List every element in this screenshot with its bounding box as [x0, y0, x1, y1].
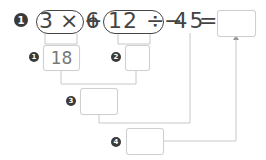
step-2-box[interactable]: [125, 45, 150, 71]
step-1-box[interactable]: 18: [43, 45, 80, 71]
expression-minus-five: − 5: [164, 8, 203, 34]
step-3-badge: 3: [66, 96, 76, 106]
problem-number-badge: 1: [14, 13, 28, 27]
step-1-badge: 1: [29, 52, 39, 62]
expression-plus: +: [84, 8, 102, 34]
step-3-box[interactable]: [80, 88, 118, 115]
expression-equals: =: [199, 8, 217, 34]
step-2-badge: 2: [111, 52, 121, 62]
step-4-badge: 4: [111, 137, 121, 147]
answer-box[interactable]: [217, 10, 256, 37]
step-4-box[interactable]: [126, 128, 164, 155]
